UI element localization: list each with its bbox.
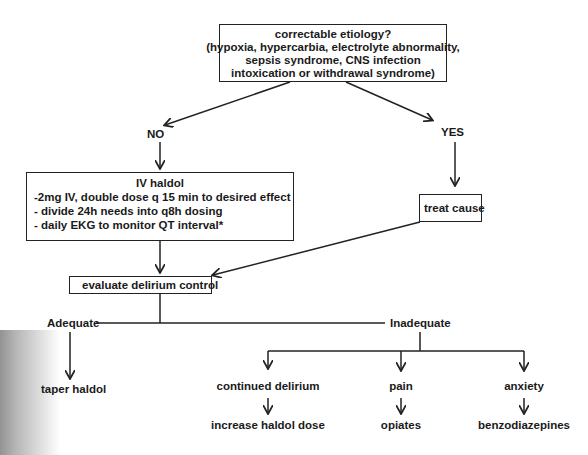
iv-haldol-title: IV haldol — [27, 177, 293, 190]
anxiety-label: anxiety — [489, 380, 559, 393]
etiology-line-2: sepsis syndrome, CNS infection — [220, 54, 446, 67]
iv-haldol-box: IV haldol -2mg IV, double dose q 15 min … — [26, 172, 294, 241]
continued-delirium-label: continued delirium — [208, 380, 328, 393]
increase-haldol-label: increase haldol dose — [203, 419, 333, 432]
etiology-question-title: correctable etiology? — [220, 28, 446, 41]
pain-label: pain — [371, 380, 431, 393]
adequate-label: Adequate — [47, 317, 99, 330]
iv-haldol-line-2: - divide 24h needs into q8h dosing — [34, 205, 223, 218]
no-label: NO — [147, 128, 164, 141]
benzodiazepines-label: benzodiazepines — [474, 419, 574, 432]
evaluate-delirium-label: evaluate delirium control — [82, 279, 218, 292]
etiology-line-3: intoxication or withdrawal syndrome) — [190, 67, 476, 80]
yes-label: YES — [441, 126, 464, 139]
taper-haldol-label: taper haldol — [41, 383, 106, 396]
etiology-line-1: (hypoxia, hypercarbia, electrolyte abnor… — [190, 41, 476, 54]
treat-cause-box: treat cause — [419, 194, 482, 222]
etiology-question-box: correctable etiology? (hypoxia, hypercar… — [219, 24, 447, 82]
inadequate-label: Inadequate — [390, 317, 451, 330]
iv-haldol-line-3: - daily EKG to monitor QT interval* — [34, 219, 223, 232]
opiates-label: opiates — [371, 419, 431, 432]
iv-haldol-line-1: -2mg IV, double dose q 15 min to desired… — [34, 191, 290, 204]
evaluate-delirium-box: evaluate delirium control — [69, 276, 212, 294]
treat-cause-label: treat cause — [424, 202, 485, 215]
